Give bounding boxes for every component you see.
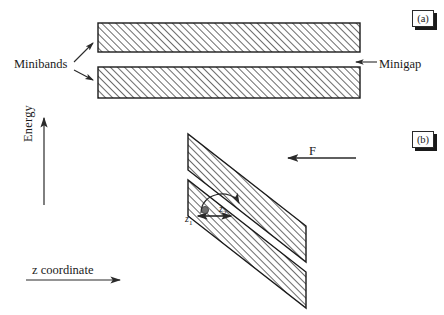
minibands-label: Minibands bbox=[14, 58, 67, 71]
panel-a-tag: (a) bbox=[412, 10, 434, 27]
electron-dot bbox=[201, 206, 208, 213]
axes-group bbox=[26, 118, 120, 280]
force-label: F bbox=[309, 145, 316, 158]
panel-b-group bbox=[188, 134, 356, 308]
lower-miniband-band bbox=[98, 67, 360, 98]
upper-miniband-band bbox=[98, 23, 360, 52]
minibands-leader-arrow-lower bbox=[74, 70, 93, 80]
panel-b-tag: (b) bbox=[412, 131, 434, 148]
minibands-leader-arrow-upper bbox=[74, 43, 93, 62]
z1-label: z1 bbox=[185, 213, 192, 227]
energy-axis-label: Energy bbox=[22, 105, 35, 142]
z2-subscript: 2 bbox=[223, 209, 227, 217]
minigap-label: Minigap bbox=[379, 58, 421, 71]
z1-subscript: 1 bbox=[189, 219, 193, 227]
z2-label: z2 bbox=[219, 203, 226, 217]
z-coordinate-axis-label: z coordinate bbox=[32, 264, 93, 277]
figure-root: Minibands Minigap F Energy z coordinate … bbox=[0, 0, 444, 315]
panel-a-group bbox=[74, 23, 377, 98]
